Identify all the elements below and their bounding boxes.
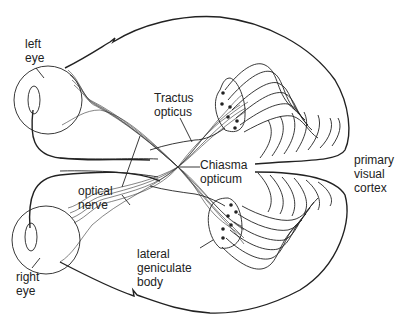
label-optical-nerve: optical nerve [78, 184, 113, 212]
tractus-leader [180, 118, 192, 142]
optical-nerve-leader-1 [122, 136, 140, 187]
label-left-eye: left eye [25, 37, 44, 65]
label-tractus-opticus: Tractus opticus [154, 91, 194, 119]
right-eye-lens [25, 223, 37, 251]
label-lateral-geniculate-body: lateral geniculate body [137, 247, 192, 289]
lower-lgn-outline [208, 198, 242, 248]
label-chiasma-opticum: Chiasma opticum [200, 158, 247, 186]
left-eye-leader [36, 68, 44, 78]
tractus-inner-upper [150, 128, 225, 150]
label-primary-visual-cortex: primary visual cortex [354, 153, 394, 195]
right-eye-icon [12, 206, 80, 274]
midline-upper [60, 158, 158, 159]
upper-inner-edge [32, 110, 150, 160]
lgn-leader [200, 240, 213, 248]
label-right-eye: right eye [16, 270, 39, 298]
left-eye-lens [28, 86, 40, 114]
upper-optic-radiation [225, 64, 318, 138]
right-eye-leader [32, 258, 40, 268]
